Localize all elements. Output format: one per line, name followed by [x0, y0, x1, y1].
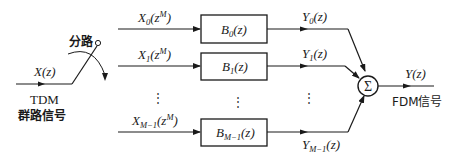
arrow-icon — [38, 82, 45, 87]
filter-1-label: B1(z) — [222, 59, 248, 76]
branch-0-output-label: Y0(z) — [302, 9, 327, 26]
rotation-arrow-icon — [102, 73, 108, 81]
summing-junction: Σ — [358, 76, 378, 96]
arrow-icon — [300, 27, 308, 32]
filter-0-label: B0(z) — [221, 22, 247, 39]
transmultiplexer-diagram: X(z) TDM 群路信号 分路 X0(zM) B0(z) Y0(z) X1(z… — [0, 0, 456, 160]
branch-0-input-label: X0(zM) — [137, 9, 171, 27]
demux-label: 分路 — [69, 34, 94, 49]
switch-pivot-icon — [95, 40, 100, 45]
input-signal-label: X(z) — [33, 64, 56, 79]
tdm-group-signal-caption: 群路信号 — [17, 108, 66, 123]
tdm-caption: TDM — [30, 92, 59, 107]
filter-ellipsis: ⋮ — [232, 95, 244, 109]
output-ellipsis: ⋮ — [303, 91, 315, 105]
sigma-icon: Σ — [364, 79, 372, 94]
arrow-icon — [403, 84, 411, 89]
output-signal-line — [378, 84, 434, 89]
branch-m-1-output-label: YM−1(z) — [302, 137, 340, 154]
branch-1-input-label: X1(zM) — [137, 46, 171, 64]
fdm-signal-caption: FDM信号 — [392, 95, 443, 109]
input-ellipsis: ⋮ — [152, 91, 164, 105]
branch-1-output-label: Y1(z) — [302, 46, 327, 63]
rotation-arc-icon — [68, 52, 105, 75]
arrow-icon — [300, 64, 308, 69]
arrow-icon — [300, 130, 308, 135]
branch-1: X1(zM) B1(z) Y1(z) — [118, 46, 359, 80]
input-signal-line — [16, 82, 72, 87]
branch-m-1-input-label: XM−1(zM) — [131, 112, 178, 130]
output-signal-label: Y(z) — [405, 66, 426, 81]
